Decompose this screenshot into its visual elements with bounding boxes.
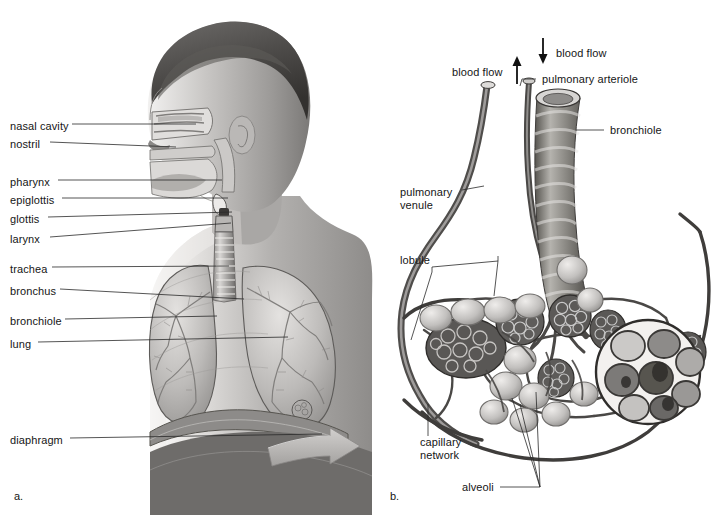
panel-a-illustration: [38, 0, 390, 515]
label-pulmonary-venule-line1: pulmonary: [400, 186, 452, 199]
label-pulmonary-venule: pulmonary venule: [400, 186, 452, 212]
trachea-shape: [213, 232, 236, 302]
label-pulmonary-arteriole: pulmonary arteriole: [542, 73, 638, 86]
label-glottis: glottis: [10, 213, 39, 226]
label-trachea: trachea: [10, 263, 47, 276]
label-epiglottis: epiglottis: [10, 194, 54, 207]
label-nostril: nostril: [10, 138, 40, 151]
label-bronchiole-panel-b: bronchiole: [610, 124, 662, 137]
label-capillary-network: capillary network: [420, 436, 461, 462]
label-larynx: larynx: [10, 233, 40, 246]
arrow-up-icon: [513, 56, 522, 84]
label-lobule: lobule: [400, 254, 430, 267]
label-capillary-network-line2: network: [420, 449, 461, 462]
label-nasal-cavity: nasal cavity: [10, 120, 69, 133]
panel-tag-a: a.: [14, 490, 23, 502]
arrow-down-icon: [539, 38, 548, 64]
label-alveoli: alveoli: [462, 481, 494, 494]
label-blood-flow-up: blood flow: [452, 66, 503, 79]
label-bronchiole-panel-a: bronchiole: [10, 315, 62, 328]
label-blood-flow-down: blood flow: [556, 47, 607, 60]
label-capillary-network-line1: capillary: [420, 436, 461, 449]
label-diaphragm: diaphragm: [10, 434, 63, 447]
panel-tag-b: b.: [390, 490, 399, 502]
label-pulmonary-venule-line2: venule: [400, 199, 452, 212]
label-bronchus: bronchus: [10, 285, 56, 298]
label-pharynx: pharynx: [10, 176, 50, 189]
label-lung: lung: [10, 338, 31, 351]
panel-b-illustration: [401, 38, 709, 487]
respiratory-system-figure: nasal cavity nostril pharynx epiglottis …: [0, 0, 720, 515]
